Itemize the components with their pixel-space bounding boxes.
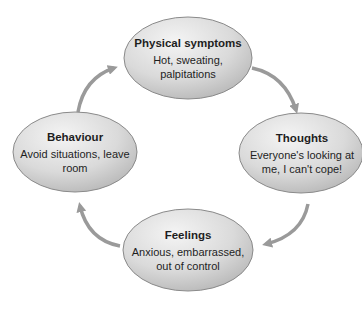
node-description: Everyone's looking at me, I can't cope! bbox=[243, 148, 361, 176]
node-thoughts: Thoughts Everyone's looking at me, I can… bbox=[243, 117, 361, 189]
node-title: Feelings bbox=[165, 228, 212, 242]
arrow-physical-to-thoughts bbox=[252, 68, 296, 110]
arrow-behaviour-to-physical bbox=[78, 68, 114, 112]
arrow-thoughts-to-feelings bbox=[266, 204, 308, 244]
node-description: Avoid situations, leave room bbox=[18, 147, 132, 175]
node-title: Physical symptoms bbox=[134, 36, 241, 50]
node-behaviour: Behaviour Avoid situations, leave room bbox=[18, 116, 132, 188]
node-title: Thoughts bbox=[276, 131, 328, 145]
node-description: Hot, sweating, palpitations bbox=[128, 53, 248, 81]
node-description: Anxious, embarrassed, out of control bbox=[130, 245, 246, 273]
node-title: Behaviour bbox=[47, 130, 103, 144]
arrow-feelings-to-behaviour bbox=[80, 206, 120, 246]
node-physical-symptoms: Physical symptoms Hot, sweating, palpita… bbox=[128, 22, 248, 94]
node-feelings: Feelings Anxious, embarrassed, out of co… bbox=[130, 214, 246, 286]
